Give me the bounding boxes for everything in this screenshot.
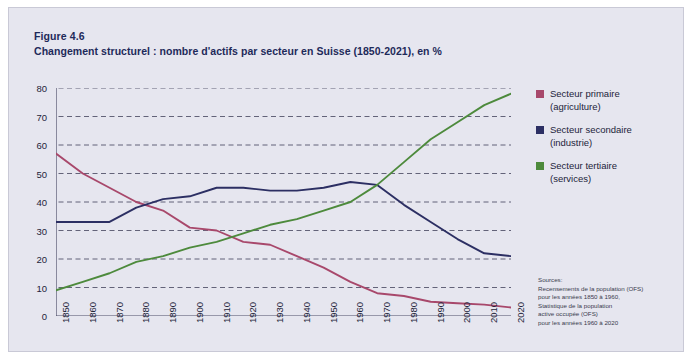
line-chart-svg	[56, 88, 511, 316]
figure-panel: Figure 4.6 Changement structurel : nombr…	[8, 7, 684, 352]
y-tick-label: 80	[17, 83, 47, 94]
y-tick-label: 60	[17, 140, 47, 151]
legend-label-line1: Secteur tertiaire	[550, 160, 617, 171]
source-line: pour les années 1850 à 1960,	[538, 293, 684, 302]
source-line: Statistique de la population	[538, 302, 684, 311]
y-tick-label: 10	[17, 282, 47, 293]
legend-label-line2: (agriculture)	[550, 101, 620, 114]
y-tick-label: 0	[17, 311, 47, 322]
y-tick-label: 30	[17, 225, 47, 236]
series-line-2	[56, 182, 511, 256]
source-line: pour les années 1960 à 2020	[538, 319, 684, 328]
square-swatch	[536, 126, 544, 134]
legend-label-line1: Secteur primaire	[550, 88, 620, 99]
series-line-3	[56, 94, 511, 291]
legend-label: Secteur primaire(agriculture)	[550, 88, 620, 113]
legend-item: Secteur secondaire(industrie)	[536, 124, 684, 149]
legend-label-line1: Secteur secondaire	[550, 124, 632, 135]
legend-label: Secteur secondaire(industrie)	[550, 124, 632, 149]
legend-label-line2: (services)	[550, 173, 617, 186]
square-swatch	[536, 90, 544, 98]
chart-plot-area: 01020304050607080 1850186018701880189019…	[56, 88, 511, 316]
square-swatch	[536, 162, 544, 170]
figure-root: Figure 4.6 Changement structurel : nombr…	[0, 0, 694, 364]
legend-label: Secteur tertiaire(services)	[550, 160, 617, 185]
y-tick-label: 50	[17, 168, 47, 179]
figure-number: Figure 4.6	[34, 29, 574, 43]
y-tick-label: 20	[17, 254, 47, 265]
source-line: active occupée (OFS)	[538, 310, 684, 319]
source-line: Sources:	[538, 276, 684, 285]
source-line: Recensements de la population (OFS)	[538, 285, 684, 294]
legend-item: Secteur tertiaire(services)	[536, 160, 684, 185]
y-tick-label: 70	[17, 111, 47, 122]
legend-label-line2: (industrie)	[550, 137, 632, 150]
figure-title: Changement structurel : nombre d'actifs …	[34, 44, 574, 59]
figure-title-block: Figure 4.6 Changement structurel : nombr…	[34, 29, 574, 59]
legend-item: Secteur primaire(agriculture)	[536, 88, 684, 113]
chart-legend: Secteur primaire(agriculture)Secteur sec…	[536, 88, 684, 196]
y-tick-label: 40	[17, 197, 47, 208]
sources-note: Sources:Recensements de la population (O…	[538, 276, 684, 328]
x-tick-label: 2020	[515, 302, 526, 323]
